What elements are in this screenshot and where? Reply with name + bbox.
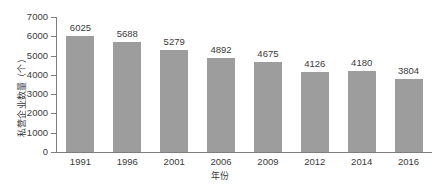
y-axis-tick-label-wrap: 7000 [0,12,48,22]
y-axis-tick-label-wrap: 0 [0,147,48,157]
x-axis-tick-label: 2001 [151,157,198,167]
bar-value-label: 6025 [70,23,91,33]
bar-slot: 4180 [338,17,385,152]
x-axis-tick-label: 2006 [198,157,245,167]
x-axis-tick-label: 1996 [104,157,151,167]
bar-slot: 6025 [57,17,104,152]
x-axis-tick-label: 2016 [385,157,432,167]
bar-value-label: 4126 [304,59,325,69]
bar[interactable] [254,62,282,152]
y-axis-tick-label-wrap: 5000 [0,51,48,61]
bar[interactable] [395,79,423,152]
bar-slot: 4126 [291,17,338,152]
y-axis-tick-label-wrap: 1000 [0,128,48,138]
y-axis-tick-label: 2000 [2,108,48,118]
y-axis-tick-label: 0 [2,147,48,157]
x-axis-line [56,152,432,153]
bar-slot: 5688 [104,17,151,152]
bar-value-label: 4675 [257,49,278,59]
bar-chart-figure: 私营企业数量（个） 01000200030004000500060007000 … [0,0,440,191]
bar-value-label: 4180 [351,58,372,68]
bar-slot: 5279 [151,17,198,152]
bar-value-label: 5688 [117,29,138,39]
y-axis-tick-label-wrap: 6000 [0,31,48,41]
bar-slot: 4892 [198,17,245,152]
y-axis-tick-label-wrap: 4000 [0,70,48,80]
y-axis-tick-label-wrap: 2000 [0,108,48,118]
bar-value-label: 5279 [164,37,185,47]
x-axis-tick-label: 2009 [245,157,292,167]
y-axis-tick-label: 6000 [2,31,48,41]
bar-slot: 4675 [245,17,292,152]
x-axis-title: 年份 [0,169,440,182]
y-axis-tick-label: 3000 [2,89,48,99]
bars-layer: 60255688527948924675412641803804 [57,17,432,152]
x-axis-tick-label: 1991 [57,157,104,167]
bar[interactable] [113,42,141,152]
y-axis-tick-label-wrap: 3000 [0,89,48,99]
bar-value-label: 4892 [210,45,231,55]
bar-value-label: 3804 [398,66,419,76]
y-axis-tick-label: 4000 [2,70,48,80]
bar-slot: 3804 [385,17,432,152]
y-axis-tick-label: 5000 [2,51,48,61]
bar[interactable] [348,71,376,152]
y-axis-tick-label: 1000 [2,128,48,138]
x-axis-tick-label: 2014 [338,157,385,167]
bar[interactable] [66,36,94,152]
bar[interactable] [207,58,235,152]
y-axis-tick-label: 7000 [2,12,48,22]
bar[interactable] [160,50,188,152]
bar[interactable] [301,72,329,152]
x-axis-tick-label: 2012 [291,157,338,167]
